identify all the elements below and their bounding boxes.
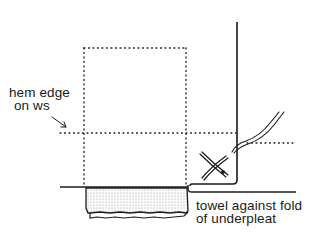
hem-edge-arrow-icon [52,117,66,127]
tailor-tack-cross-icon [200,152,228,180]
hem-edge-label: hem edge on ws [9,86,70,112]
underpleat-fold-line [190,22,237,186]
towel-label-line2: of underpleat [196,212,302,225]
pleat-outline-dotted [84,48,186,186]
tack-dot-icon [221,170,225,174]
towel-label: towel against fold of underpleat [196,199,302,225]
underpleat-lower-fold [188,185,296,192]
hem-edge-label-line2: on ws [9,99,70,112]
towel-stippled [86,188,188,213]
thread-strands-icon [232,112,284,153]
pleat-pressing-diagram: hem edge on ws towel against fold of und… [0,0,310,238]
